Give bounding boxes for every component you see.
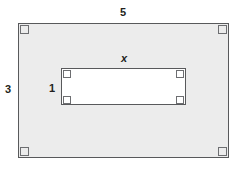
right-angle-mark-outer-top-right	[218, 25, 227, 34]
outer-height-label: 3	[5, 84, 11, 95]
right-angle-mark-outer-bottom-left	[20, 147, 29, 156]
inner-rectangle	[61, 68, 186, 105]
right-angle-mark-outer-top-left	[20, 25, 29, 34]
right-angle-mark-inner-top-right	[176, 70, 184, 78]
right-angle-mark-inner-bottom-left	[63, 96, 71, 104]
inner-height-label: 1	[49, 83, 55, 94]
right-angle-mark-outer-bottom-right	[218, 147, 227, 156]
right-angle-mark-inner-top-left	[63, 70, 71, 78]
outer-width-label: 5	[120, 7, 126, 18]
right-angle-mark-inner-bottom-right	[176, 96, 184, 104]
geometry-figure: 5 3 x 1	[0, 0, 246, 171]
inner-width-label: x	[121, 53, 127, 64]
